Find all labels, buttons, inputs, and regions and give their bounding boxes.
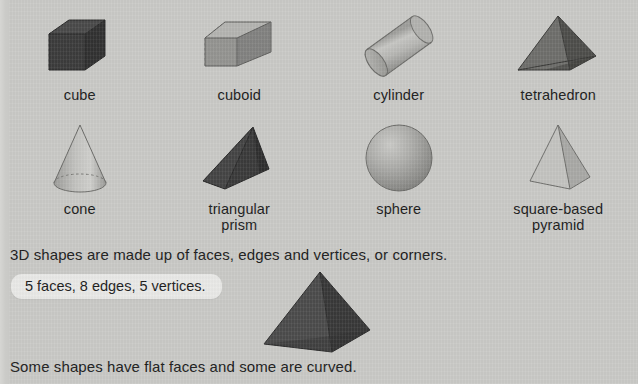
sphere-illustration (357, 119, 441, 197)
shape-item-tetrahedron: tetrahedron (479, 8, 638, 103)
properties-callout: 5 faces, 8 edges, 5 vertices. (11, 274, 222, 299)
shape-item-cube: cube (0, 8, 160, 103)
tetrahedron-illustration (508, 8, 608, 82)
shape-item-cone: cone (0, 119, 160, 233)
shape-item-square-based-pyramid: square-based pyramid (479, 119, 638, 233)
shape-item-sphere: sphere (319, 119, 479, 233)
shape-item-cylinder: cylinder (319, 8, 479, 103)
definition-sentence: 3D shapes are made up of faces, edges an… (10, 246, 447, 263)
shape-row-2: cone (0, 103, 638, 233)
triangular-prism-label-line1: triangular (209, 201, 270, 217)
square-pyramid-label-line2: pyramid (532, 217, 584, 233)
square-pyramid-label-line1: square-based (513, 201, 603, 217)
cone-illustration (41, 119, 119, 197)
shape-label-cylinder: cylinder (373, 87, 424, 103)
shape-item-triangular-prism: triangular prism (160, 119, 320, 233)
shape-label-sphere: sphere (376, 201, 421, 217)
shape-label-square-based-pyramid: square-based pyramid (513, 201, 603, 233)
cuboid-illustration (191, 8, 287, 82)
triangular-prism-illustration (189, 119, 289, 197)
square-based-pyramid-illustration (508, 119, 608, 197)
shape-label-cone: cone (64, 201, 96, 217)
cube-illustration (41, 8, 119, 82)
shape-gallery: cube (0, 0, 638, 234)
shape-label-tetrahedron: tetrahedron (521, 87, 596, 103)
shape-label-cuboid: cuboid (218, 87, 261, 103)
worksheet-page: cube (0, 0, 638, 384)
curved-faces-sentence: Some shapes have flat faces and some are… (10, 358, 357, 375)
shape-item-cuboid: cuboid (160, 8, 320, 103)
cylinder-illustration (351, 8, 447, 82)
shape-row-1: cube (0, 0, 638, 103)
large-square-based-pyramid-illustration (258, 268, 384, 354)
triangular-prism-label-line2: prism (221, 217, 257, 233)
shape-label-cube: cube (64, 87, 96, 103)
shape-label-triangular-prism: triangular prism (209, 201, 270, 233)
